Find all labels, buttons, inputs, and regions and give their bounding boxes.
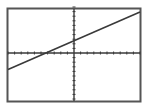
calculator-graph-screen: [0, 0, 146, 109]
